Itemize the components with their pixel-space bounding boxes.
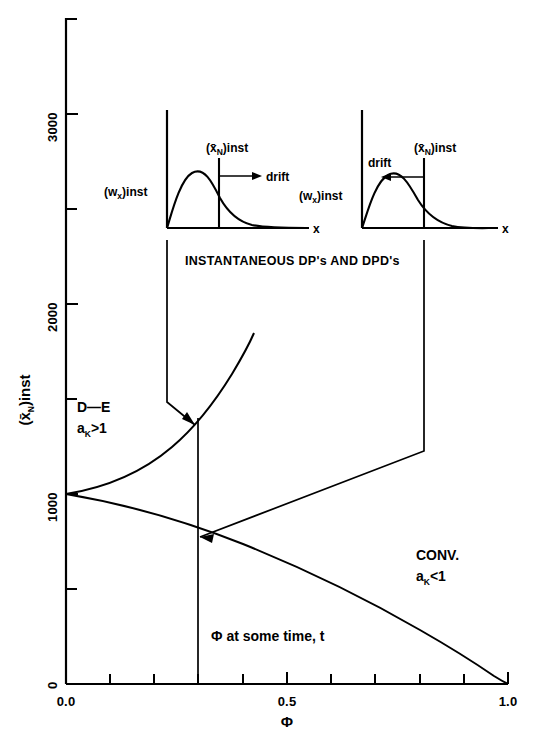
y-axis-title: (x̄N)inst xyxy=(16,374,36,425)
de-alpha: a xyxy=(77,420,85,436)
left-inset-xn-label: (x̄N)inst xyxy=(206,141,248,157)
y-ticklabel-2000: 2000 xyxy=(45,302,60,332)
conv-alpha-rel: <1 xyxy=(430,568,446,584)
right-wx-close: )inst xyxy=(317,189,342,203)
left-inset-drift-arrowhead xyxy=(252,172,262,180)
right-inset-distribution-curve xyxy=(362,173,496,228)
figure-root: 0 1000 2000 3000 (x̄N)inst 0.0 0.5 1.0 Φ xyxy=(0,0,542,741)
left-xn-open: (x̄ xyxy=(206,141,217,155)
right-xn-close: )inst xyxy=(431,141,456,155)
y-ticklabel-3000: 3000 xyxy=(45,112,60,142)
chart-svg: 0 1000 2000 3000 (x̄N)inst 0.0 0.5 1.0 Φ xyxy=(0,0,542,741)
right-xn-open: (x̄ xyxy=(414,141,425,155)
x-ticklabel-0.5: 0.5 xyxy=(278,694,297,709)
x-ticklabel-0.0: 0.0 xyxy=(57,694,76,709)
right-wx-open: (w xyxy=(299,189,313,203)
phi-time-label: Φ at some time, t xyxy=(211,628,325,644)
x-axis-title: Φ xyxy=(281,713,293,730)
left-wx-open: (w xyxy=(104,185,118,199)
y-ticklabels: 0 1000 2000 3000 xyxy=(45,112,60,689)
right-inset-wx-label: (wx)inst xyxy=(299,189,342,205)
annotation-de: D—E aK>1 xyxy=(77,399,110,439)
left-inset-x-axis-label: x xyxy=(313,222,320,236)
de-label-line1: D—E xyxy=(77,399,110,415)
left-inset-drift-label: drift xyxy=(266,170,289,184)
conv-label-line2: aK<1 xyxy=(416,568,446,587)
leader-right-inset xyxy=(200,240,424,537)
y-ticklabel-1000: 1000 xyxy=(45,492,60,522)
conv-alpha: a xyxy=(416,568,424,584)
axes-group xyxy=(66,18,508,684)
right-inset-x-axis-label: x xyxy=(502,222,509,236)
right-inset-xn-label: (x̄N)inst xyxy=(414,141,456,157)
right-inset-drift-label: drift xyxy=(368,156,391,170)
x-ticklabel-1.0: 1.0 xyxy=(499,694,518,709)
inset-caption: INSTANTANEOUS DP's AND DPD's xyxy=(185,254,400,268)
curve-conv-falling xyxy=(66,494,508,684)
leader-left-arrowhead xyxy=(182,412,195,425)
leader-lines xyxy=(167,240,424,543)
left-inset-wx-label: (wx)inst xyxy=(104,185,147,201)
de-alpha-rel: >1 xyxy=(91,420,107,436)
svg-text:(x̄N)inst: (x̄N)inst xyxy=(16,374,36,425)
left-inset: (wx)inst (x̄N)inst drift x xyxy=(104,110,320,236)
conv-label-line1: CONV. xyxy=(416,547,459,563)
left-xn-close: )inst xyxy=(223,141,248,155)
x-ticklabels: 0.0 0.5 1.0 Φ xyxy=(57,694,518,730)
y-title-close: )inst xyxy=(16,374,33,406)
right-inset: (wx)inst (x̄N)inst drift x xyxy=(299,110,509,236)
de-label-line2: aK>1 xyxy=(77,420,107,439)
y-title-open: (x̄ xyxy=(16,412,33,426)
y-ticklabel-0: 0 xyxy=(45,682,60,689)
left-wx-close: )inst xyxy=(122,185,147,199)
annotation-conv: CONV. aK<1 xyxy=(416,547,459,587)
